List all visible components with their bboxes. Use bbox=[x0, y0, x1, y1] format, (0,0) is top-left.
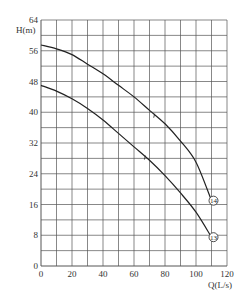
curve-14 bbox=[41, 45, 212, 201]
y-tick-label: 16 bbox=[29, 200, 39, 210]
x-tick-label: 80 bbox=[161, 269, 171, 279]
x-tick-label: 100 bbox=[189, 269, 203, 279]
x-tick-label: 120 bbox=[220, 269, 234, 279]
x-tick-label: 60 bbox=[130, 269, 140, 279]
grid-lines bbox=[41, 20, 227, 266]
y-tick-label: 48 bbox=[29, 77, 39, 87]
y-tick-label: 40 bbox=[29, 107, 39, 117]
y-tick-label: 64 bbox=[29, 15, 39, 25]
series-label-14: 14 bbox=[210, 197, 218, 205]
axis-tick-labels: 0204060801001200816243240485664 bbox=[29, 15, 234, 279]
performance-curves bbox=[41, 45, 212, 237]
x-tick-label: 20 bbox=[68, 269, 78, 279]
curve-13 bbox=[41, 85, 212, 237]
series-label-13: 13 bbox=[210, 234, 218, 242]
series-labels: 1413 bbox=[209, 196, 218, 242]
y-tick-label: 24 bbox=[29, 169, 39, 179]
x-tick-label: 40 bbox=[99, 269, 109, 279]
x-axis-label: Q(L/s) bbox=[208, 280, 232, 290]
x-tick-label: 0 bbox=[39, 269, 44, 279]
y-tick-label: 8 bbox=[34, 230, 39, 240]
y-tick-label: 0 bbox=[34, 261, 39, 271]
y-axis-label: H(m) bbox=[16, 25, 36, 35]
pump-performance-chart: 0204060801001200816243240485664 H(m) Q(L… bbox=[0, 0, 248, 305]
y-tick-label: 32 bbox=[29, 138, 38, 148]
y-tick-label: 56 bbox=[29, 46, 39, 56]
